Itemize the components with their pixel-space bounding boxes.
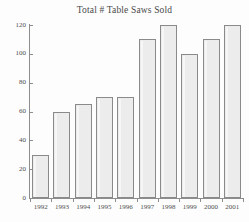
y-axis-tick-label: 40 (4, 137, 26, 144)
bar-1997 (139, 39, 156, 198)
x-axis-tick (200, 198, 201, 202)
y-axis-tick-label: 20 (4, 166, 26, 173)
x-axis-tick-label: 2001 (222, 203, 243, 211)
bar-chart-figure: Total # Table Saws Sold 020406080100120 … (0, 0, 249, 222)
x-axis-tick-label: 1993 (51, 203, 72, 211)
x-axis-tick (94, 198, 95, 202)
x-axis-tick-label: 2000 (200, 203, 221, 211)
y-axis-tick (30, 112, 33, 113)
x-axis-tick (243, 198, 244, 202)
x-axis-tick (222, 198, 223, 202)
chart-title: Total # Table Saws Sold (0, 5, 249, 15)
y-axis-tick-label: 100 (4, 50, 26, 57)
y-axis-tick (30, 140, 33, 141)
x-axis-tick (51, 198, 52, 202)
y-axis-tick-label: 80 (4, 79, 26, 86)
x-axis-tick-label: 1999 (179, 203, 200, 211)
y-axis-tick-label: 0 (4, 195, 26, 202)
bar-1993 (53, 112, 70, 199)
x-axis-tick-label: 1996 (115, 203, 136, 211)
x-axis-tick-label: 1995 (94, 203, 115, 211)
x-axis-tick (73, 198, 74, 202)
x-axis-tick (137, 198, 138, 202)
y-axis-tick (30, 54, 33, 55)
y-axis-tick-label: 120 (4, 22, 26, 29)
bar-1994 (75, 104, 92, 198)
x-axis-tick-label: 1998 (158, 203, 179, 211)
x-axis-tick (30, 198, 31, 202)
x-axis-tick-label: 1992 (30, 203, 51, 211)
bar-1998 (160, 25, 177, 198)
bar-2001 (224, 25, 241, 198)
bar-1992 (32, 155, 49, 198)
x-axis-tick (115, 198, 116, 202)
bar-1995 (96, 97, 113, 198)
x-axis-tick-label: 1997 (137, 203, 158, 211)
y-axis-tick-label: 60 (4, 108, 26, 115)
bar-2000 (203, 39, 220, 198)
bar-1999 (181, 54, 198, 198)
y-axis-tick (30, 25, 33, 26)
x-axis-tick-label: 1994 (73, 203, 94, 211)
bar-1996 (117, 97, 134, 198)
x-axis-tick (179, 198, 180, 202)
x-axis-tick (158, 198, 159, 202)
y-axis-tick (30, 83, 33, 84)
